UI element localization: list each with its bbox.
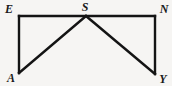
vertex-label-N: N [160,3,169,15]
geometry-figure: E S N A Y [0,0,172,86]
vertex-label-A: A [7,72,15,84]
vertex-label-Y: Y [159,73,166,85]
vertex-label-S: S [82,1,89,13]
segment-S-Y [86,16,155,74]
vertex-label-E: E [5,3,13,15]
segment-A-S [19,16,86,73]
